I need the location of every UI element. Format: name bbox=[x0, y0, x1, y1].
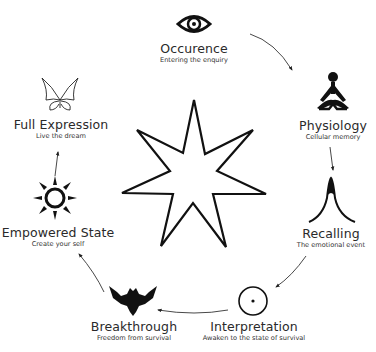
eagle-icon bbox=[109, 286, 157, 316]
eye-icon bbox=[178, 17, 210, 32]
star-icon bbox=[122, 100, 266, 247]
node-recalling: Recalling The emotional event bbox=[297, 227, 365, 249]
node-subtitle: Freedom from survival bbox=[91, 334, 177, 342]
node-occurence: Occurence Entering the enquiry bbox=[160, 42, 228, 64]
node-title: Physiology bbox=[299, 119, 367, 133]
node-subtitle: The emotional event bbox=[297, 241, 365, 249]
arrow-breakthrough-to-empowered bbox=[79, 254, 104, 292]
node-title: Full Expression bbox=[14, 118, 109, 132]
node-full-expression: Full Expression Live the dream bbox=[14, 118, 109, 140]
node-title: Recalling bbox=[297, 227, 365, 241]
node-interpretation: Interpretation Awaken to the state of su… bbox=[203, 320, 305, 342]
node-title: Interpretation bbox=[203, 320, 305, 334]
node-subtitle: Awaken to the state of survival bbox=[203, 334, 305, 342]
node-subtitle: Live the dream bbox=[14, 132, 109, 140]
node-title: Breakthrough bbox=[91, 320, 177, 334]
peak-curve-icon bbox=[309, 178, 355, 222]
node-physiology: Physiology Cellular memory bbox=[299, 119, 367, 141]
butterfly-icon bbox=[42, 78, 78, 110]
node-breakthrough: Breakthrough Freedom from survival bbox=[91, 320, 177, 342]
arrow-interpretation-to-breakthrough bbox=[158, 310, 228, 313]
node-title: Occurence bbox=[160, 42, 228, 56]
sun-icon bbox=[33, 176, 77, 220]
node-subtitle: Create your self bbox=[2, 240, 115, 248]
node-subtitle: Cellular memory bbox=[299, 133, 367, 141]
node-empowered-state: Empowered State Create your self bbox=[2, 226, 115, 248]
arrow-physiology-to-recalling bbox=[330, 147, 333, 170]
arrow-occurence-to-physiology bbox=[250, 34, 292, 70]
arrow-empowered-to-fullexpression bbox=[55, 152, 58, 176]
arrow-recalling-to-interpretation bbox=[276, 256, 306, 287]
node-subtitle: Entering the enquiry bbox=[160, 56, 228, 64]
circle-dot-icon bbox=[239, 287, 267, 315]
node-title: Empowered State bbox=[2, 226, 115, 240]
meditating-figure-icon bbox=[317, 72, 349, 110]
